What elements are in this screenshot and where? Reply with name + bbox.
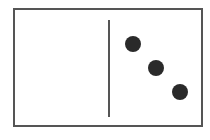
pip-1	[125, 36, 141, 52]
pip-3	[172, 84, 188, 100]
pip-2	[148, 60, 164, 76]
domino-divider	[108, 20, 110, 117]
